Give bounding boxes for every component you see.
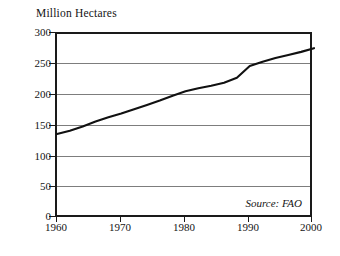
y-tick-label-200: 200 (11, 89, 51, 100)
y-tick-label-150: 150 (11, 120, 51, 131)
x-tick-label-2000: 2000 (289, 222, 333, 233)
x-tick-label-1980: 1980 (162, 222, 206, 233)
x-tick-label-1970: 1970 (98, 222, 142, 233)
x-tick-label-1960: 1960 (34, 222, 78, 233)
chart-axis-title: Million Hectares (36, 7, 117, 19)
x-tick-label-1990: 1990 (226, 222, 270, 233)
y-tick-label-300: 300 (11, 27, 51, 38)
source-annotation: Source: FAO (245, 197, 302, 209)
y-tick-label-250: 250 (11, 58, 51, 69)
plot-area: Source: FAO (55, 32, 312, 217)
y-tick-label-100: 100 (11, 151, 51, 162)
y-tick-label-50: 50 (11, 181, 51, 192)
data-series-line (57, 34, 314, 219)
chart-figure: Million Hectares 300 250 200 150 100 50 … (0, 0, 340, 256)
